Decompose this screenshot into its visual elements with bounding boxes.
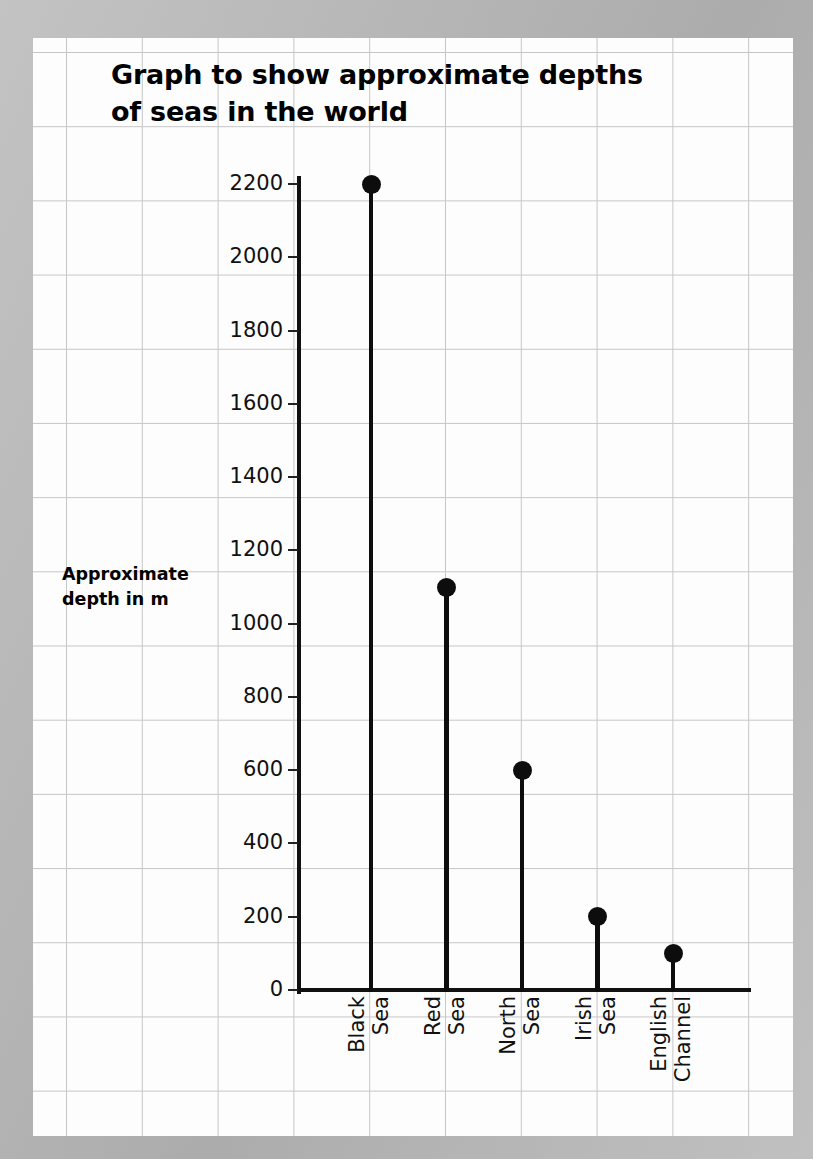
y-tick-label-text: 0 bbox=[211, 979, 283, 1000]
y-tick-label: 1200 bbox=[203, 539, 283, 560]
y-tick-label: 1000 bbox=[203, 613, 283, 634]
y-axis-line bbox=[297, 176, 301, 994]
data-point-marker bbox=[664, 944, 683, 963]
x-category-word: Sea bbox=[447, 996, 468, 1035]
y-tick-label-text: 2000 bbox=[211, 246, 283, 267]
y-tick-label: 1400 bbox=[203, 466, 283, 487]
y-tick-label-text: 800 bbox=[211, 686, 283, 707]
y-tick-label: 600 bbox=[203, 759, 283, 780]
x-category-word: English bbox=[649, 996, 670, 1072]
y-tick-mark bbox=[288, 330, 298, 332]
y-tick-mark bbox=[288, 696, 298, 698]
data-stem bbox=[520, 770, 525, 992]
data-stem bbox=[369, 184, 374, 992]
y-tick-label-text: 400 bbox=[211, 832, 283, 853]
y-tick-label-text: 600 bbox=[211, 759, 283, 780]
y-tick-mark bbox=[288, 842, 298, 844]
x-category-word: Irish bbox=[574, 996, 595, 1041]
y-tick-label-text: 1600 bbox=[211, 393, 283, 414]
y-tick-mark bbox=[288, 916, 298, 918]
y-tick-label-text: 200 bbox=[211, 906, 283, 927]
data-point-marker bbox=[437, 578, 456, 597]
y-tick-mark bbox=[288, 183, 298, 185]
y-tick-mark bbox=[288, 623, 298, 625]
data-point-marker bbox=[588, 907, 607, 926]
x-category-word: Sea bbox=[371, 996, 392, 1035]
y-tick-mark bbox=[288, 769, 298, 771]
y-tick-label-text: 1000 bbox=[211, 613, 283, 634]
y-tick-label: 1600 bbox=[203, 393, 283, 414]
scanned-page: Graph to show approximate depths of seas… bbox=[0, 0, 813, 1159]
y-tick-mark bbox=[288, 549, 298, 551]
x-category-word: Black bbox=[347, 996, 368, 1053]
x-category-word: Channel bbox=[673, 996, 694, 1082]
plot-area: 0200400600800100012001400160018002000220… bbox=[33, 38, 793, 1136]
x-category-word: North bbox=[498, 996, 519, 1055]
y-tick-label-text: 1800 bbox=[211, 320, 283, 341]
graph-paper-sheet: Graph to show approximate depths of seas… bbox=[33, 38, 793, 1136]
y-tick-label-text: 2200 bbox=[211, 173, 283, 194]
y-tick-mark bbox=[288, 476, 298, 478]
x-category-word: Sea bbox=[598, 996, 619, 1035]
y-tick-label: 200 bbox=[203, 906, 283, 927]
y-tick-label: 800 bbox=[203, 686, 283, 707]
x-category-word: Sea bbox=[522, 996, 543, 1035]
y-tick-label-text: 1200 bbox=[211, 539, 283, 560]
data-point-marker bbox=[513, 761, 532, 780]
data-point-marker bbox=[362, 175, 381, 194]
y-tick-label: 400 bbox=[203, 832, 283, 853]
x-category-word: Red bbox=[423, 996, 444, 1036]
y-tick-label: 2000 bbox=[203, 246, 283, 267]
y-tick-mark bbox=[288, 989, 298, 991]
y-tick-label: 1800 bbox=[203, 320, 283, 341]
y-tick-mark bbox=[288, 403, 298, 405]
y-tick-mark bbox=[288, 256, 298, 258]
y-tick-label-text: 1400 bbox=[211, 466, 283, 487]
data-stem bbox=[595, 917, 600, 992]
data-stem bbox=[444, 587, 449, 992]
y-tick-label: 2200 bbox=[203, 173, 283, 194]
y-tick-label: 0 bbox=[203, 979, 283, 1000]
